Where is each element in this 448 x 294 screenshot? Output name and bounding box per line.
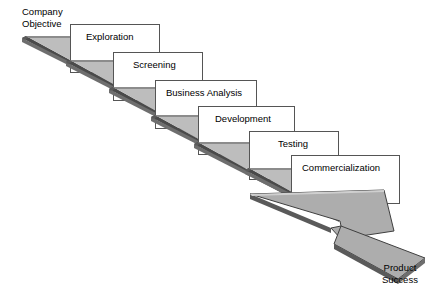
label-product-success: Product Success: [382, 262, 418, 285]
label-screening: Screening: [133, 59, 176, 71]
label-development: Development: [215, 113, 271, 125]
company-objective-line2: Objective: [22, 18, 62, 29]
label-company-objective: Company Objective: [22, 6, 63, 29]
label-testing: Testing: [278, 138, 308, 150]
staircase-graphic: [0, 0, 448, 294]
company-objective-line1: Company: [22, 6, 63, 17]
label-exploration: Exploration: [86, 31, 134, 43]
label-business-analysis: Business Analysis: [166, 87, 242, 99]
product-success-line1: Product: [384, 262, 417, 273]
diagram-canvas: Company Objective Exploration Screening …: [0, 0, 448, 294]
product-success-line2: Success: [382, 274, 418, 285]
label-commercialization: Commercialization: [302, 162, 380, 174]
